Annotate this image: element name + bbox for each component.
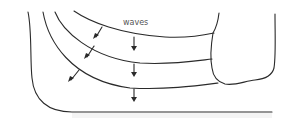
arrow-icon: [84, 46, 94, 59]
arrow-icon: [131, 89, 137, 102]
arrow-icon: [68, 70, 79, 82]
arrow-icon: [131, 64, 137, 77]
beach-shade: [72, 113, 272, 118]
arrow-icon: [131, 37, 137, 51]
arrow-icon: [93, 27, 102, 39]
headland: [211, 13, 275, 84]
wave-refraction-diagram: waves: [0, 0, 294, 123]
wave-direction-arrows: [68, 27, 137, 102]
waves-label: waves: [123, 18, 148, 27]
